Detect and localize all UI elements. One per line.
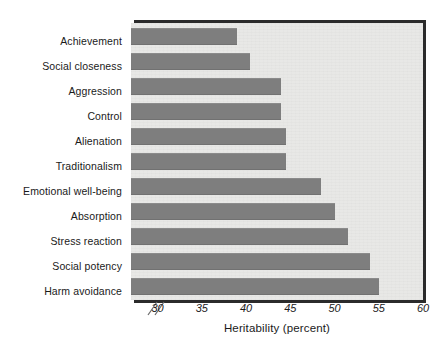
x-tick-label-45: 45 [284,302,296,314]
category-axis-labels: Achievement Social closeness Aggression … [0,26,126,300]
bar [131,128,286,145]
category-label-aggression: Aggression [68,84,122,98]
category-label-achievement: Achievement [60,34,122,48]
x-tick-label-50: 50 [328,302,340,314]
category-label-stress-reaction: Stress reaction [50,234,122,248]
x-tick-label-40: 40 [240,302,252,314]
category-label-traditionalism: Traditionalism [56,159,122,173]
bar [131,203,335,220]
bar [131,28,237,45]
category-label-harm-avoidance: Harm avoidance [44,284,122,298]
x-tick-label-35: 35 [196,302,208,314]
bar [131,53,250,70]
x-axis-title: Heritability (percent) [131,322,423,334]
heritability-bar-chart: Achievement Social closeness Aggression … [0,0,434,356]
bar [131,253,370,270]
bar [131,178,321,195]
x-tick-label-30: 30 [151,302,163,314]
category-label-social-potency: Social potency [52,259,122,273]
bar [131,278,379,295]
plot-area [131,23,423,300]
bar [131,78,281,95]
value-axis: 30354045505560 [131,300,423,322]
x-tick-label-55: 55 [373,302,385,314]
category-label-alienation: Alienation [75,134,122,148]
category-label-control: Control [87,109,122,123]
bar [131,153,286,170]
category-label-social-closeness: Social closeness [42,59,122,73]
category-label-emotional-well-being: Emotional well-being [23,184,122,198]
bar [131,228,348,245]
x-tick-label-60: 60 [417,302,429,314]
bar [131,103,281,120]
category-label-absorption: Absorption [71,209,122,223]
